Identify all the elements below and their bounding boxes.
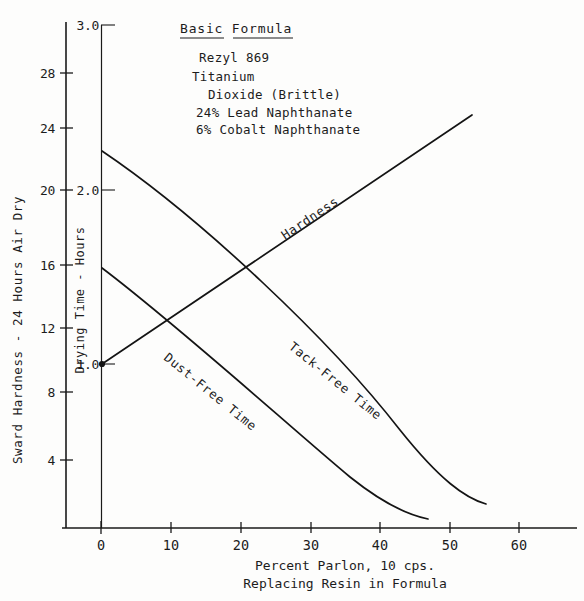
formula-item-titanium: Titanium	[192, 69, 255, 84]
formula-item-rezyl: Rezyl 869	[199, 50, 269, 65]
formula-item-cobalt-naphthanate: 6% Cobalt Naphthanate	[196, 122, 360, 137]
curve-label-dust-free-time: Dust-Free Time	[161, 350, 260, 434]
tick-label-x-60: 60	[511, 537, 527, 553]
tick-label-left-8: 8	[47, 385, 55, 400]
tick-label-x-20: 20	[233, 537, 249, 553]
tick-label-x-10: 10	[163, 537, 179, 553]
tick-label-right-3-0: 3.0	[76, 18, 99, 33]
curve-label-hardness: Hardness	[278, 193, 341, 242]
formula-item-dioxide: Dioxide (Brittle)	[208, 87, 341, 102]
tick-label-x-40: 40	[372, 537, 388, 553]
tick-label-x-50: 50	[442, 537, 458, 553]
tick-label-left-12: 12	[40, 321, 55, 336]
curve-label-tack-free-time: Tack-Free Time	[286, 339, 385, 423]
tick-label-left-4: 4	[47, 453, 55, 468]
x-axis-title-line2: Replacing Resin in Formula	[243, 576, 447, 591]
series-dust-free-time	[102, 268, 428, 519]
y-axis-right-title: Drying Time - Hours	[73, 227, 87, 374]
x-axis-title-line1: Percent Parlon, 10 cps.	[255, 558, 435, 573]
curve-hardness-start-marker	[99, 361, 105, 367]
tick-label-left-28: 28	[40, 66, 55, 81]
curve-dust-free-line	[102, 268, 428, 519]
tick-label-x-0: 0	[97, 537, 105, 553]
formula-heading: Basic Formula	[180, 21, 292, 36]
tick-label-x-30: 30	[303, 537, 319, 553]
curve-tack-free-line	[102, 151, 486, 504]
left-axis-tick-labels: 28 24 20 16 12 8 4	[40, 66, 56, 468]
series-tack-free-time	[102, 151, 486, 504]
tick-label-left-24: 24	[40, 121, 56, 136]
formula-item-lead-naphthanate: 24% Lead Naphthanate	[196, 105, 353, 120]
x-axis-tick-labels: 0 10 20 30 40 50 60	[97, 537, 527, 553]
formula-annotation: Basic Formula Rezyl 869 Titanium Dioxide…	[180, 21, 360, 137]
tick-label-right-2-0: 2.0	[76, 183, 99, 198]
chart-container: 28 24 20 16 12 8 4 3.0 2.0 1.0	[0, 0, 584, 601]
line-chart: 28 24 20 16 12 8 4 3.0 2.0 1.0	[0, 0, 584, 601]
y-axis-left-title: Sward Hardness - 24 Hours Air Dry	[10, 196, 25, 464]
right-axis-ticks	[101, 25, 115, 364]
tick-label-left-16: 16	[40, 258, 55, 273]
tick-label-left-20: 20	[40, 183, 55, 198]
